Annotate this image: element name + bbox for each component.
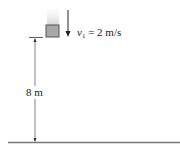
height-label: 8 m — [26, 86, 43, 99]
velocity-label: v1 = 2 m/s — [77, 27, 121, 40]
velocity-value: = 2 m/s — [85, 26, 121, 38]
velocity-arrow-icon — [66, 10, 71, 37]
falling-block — [46, 25, 59, 37]
diagram-canvas — [0, 0, 180, 158]
motion-blur-trail — [47, 4, 59, 25]
